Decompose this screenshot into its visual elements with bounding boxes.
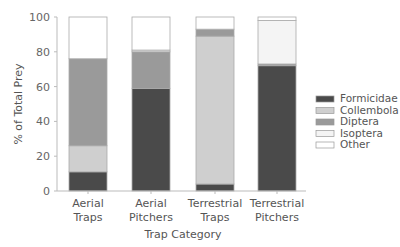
- bar-3: [258, 17, 296, 191]
- y-tick-label: 20: [36, 150, 50, 163]
- y-tick-label: 60: [36, 81, 50, 94]
- y-tick-label: 40: [36, 115, 50, 128]
- legend-swatch: [316, 119, 334, 125]
- legend-swatch: [316, 108, 334, 114]
- legend-swatch: [316, 131, 334, 137]
- x-axis-title: Trap Category: [143, 228, 222, 241]
- bar-segment-formicidae: [196, 184, 234, 191]
- legend-swatch: [316, 96, 334, 102]
- bar-0: [69, 17, 107, 191]
- x-axis: AerialTrapsAerialPitchersTerrestrialTrap…: [72, 191, 304, 224]
- bar-segment-formicidae: [69, 172, 107, 191]
- stacked-bar-chart: 020406080100 AerialTrapsAerialPitchersTe…: [0, 0, 400, 247]
- bar-segment-other: [258, 17, 296, 20]
- bar-2: [196, 17, 234, 191]
- bar-segment-formicidae: [132, 88, 170, 191]
- y-tick-label: 0: [43, 185, 50, 198]
- legend-label: Collembola: [340, 104, 399, 116]
- legend-item-formicidae: Formicidae: [316, 92, 398, 104]
- x-tick-label: Terrestrial: [187, 197, 242, 210]
- y-axis-title: % of Total Prey: [12, 63, 25, 145]
- legend-item-isoptera: Isoptera: [316, 127, 383, 139]
- x-tick-label: Traps: [199, 211, 229, 224]
- x-tick-label: Traps: [72, 211, 102, 224]
- bar-segment-diptera: [196, 29, 234, 36]
- bar-segment-diptera: [69, 59, 107, 146]
- x-tick-label: Pitchers: [129, 211, 173, 224]
- bar-segment-collembola: [196, 36, 234, 184]
- y-tick-label: 100: [29, 11, 50, 24]
- bar-segment-collembola: [69, 146, 107, 172]
- legend-item-collembola: Collembola: [316, 104, 399, 116]
- legend-swatch: [316, 142, 334, 148]
- legend-item-other: Other: [316, 138, 370, 150]
- bar-segment-other: [196, 17, 234, 29]
- legend-label: Diptera: [340, 115, 379, 127]
- y-tick-label: 80: [36, 46, 50, 59]
- bar-1: [132, 17, 170, 191]
- x-tick-label: Pitchers: [255, 211, 299, 224]
- bar-segment-formicidae: [258, 66, 296, 191]
- bar-segment-diptera: [132, 52, 170, 89]
- x-tick-label: Terrestrial: [249, 197, 304, 210]
- plot-area: [69, 17, 296, 191]
- legend-item-diptera: Diptera: [316, 115, 379, 127]
- legend-label: Formicidae: [340, 92, 398, 104]
- x-tick-label: Aerial: [135, 197, 166, 210]
- bar-segment-other: [132, 17, 170, 50]
- bar-segment-isoptera: [258, 20, 296, 64]
- bar-segment-other: [69, 17, 107, 59]
- legend: FormicidaeCollembolaDipteraIsopteraOther: [316, 92, 399, 150]
- x-tick-label: Aerial: [72, 197, 103, 210]
- legend-label: Other: [340, 138, 370, 150]
- legend-label: Isoptera: [340, 127, 383, 139]
